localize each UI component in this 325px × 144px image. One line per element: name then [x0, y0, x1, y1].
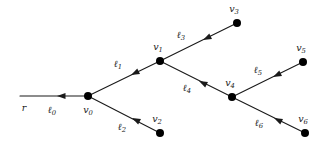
edge-label-l0: ℓ0: [48, 105, 56, 115]
node-v2: [156, 129, 164, 137]
node-v0: [84, 92, 92, 100]
arrowhead-l2: [131, 115, 141, 124]
edge-l3: [160, 23, 237, 61]
arrowhead-l0: [57, 93, 66, 99]
node-layer: [84, 19, 309, 137]
node-label-v0: v0: [83, 105, 93, 115]
node-label-v6: v6: [298, 114, 308, 124]
edge-label-l1: ℓ1: [114, 59, 122, 69]
edge-l5: [232, 62, 303, 97]
node-label-v5: v5: [296, 43, 306, 53]
arrowhead-l1: [130, 68, 140, 77]
node-v6: [301, 129, 309, 137]
arrowhead-l6: [273, 115, 283, 124]
edge-label-l2: ℓ2: [118, 122, 126, 132]
arrowhead-l3: [202, 33, 212, 42]
edge-l6: [232, 97, 305, 133]
node-v3: [233, 19, 241, 27]
diagram-canvas: [0, 0, 325, 144]
node-label-v3: v3: [229, 4, 239, 14]
node-label-v2: v2: [152, 114, 162, 124]
node-v1: [156, 57, 164, 65]
tree-diagram-figure: ℓ0ℓ1ℓ2ℓ3ℓ4ℓ5ℓ6v0v1v2v3v4v5v6r: [0, 0, 325, 144]
node-label-v4: v4: [225, 78, 235, 88]
arrowhead-l5: [272, 70, 282, 79]
root-label: r: [22, 103, 27, 113]
edge-l1: [88, 61, 160, 96]
edge-layer: [20, 23, 305, 133]
edge-label-l3: ℓ3: [177, 30, 185, 40]
node-label-v1: v1: [153, 42, 163, 52]
edge-label-l4: ℓ4: [183, 83, 191, 93]
edge-l4: [160, 61, 232, 97]
node-v5: [299, 58, 307, 66]
edge-label-l5: ℓ5: [254, 65, 262, 75]
node-v4: [228, 93, 236, 101]
arrowhead-l4: [198, 78, 208, 87]
edge-label-l6: ℓ6: [255, 118, 263, 128]
